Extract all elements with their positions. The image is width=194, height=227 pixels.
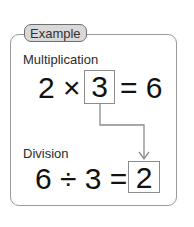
division-left: 6 ÷ 3 = <box>35 162 127 196</box>
division-label: Division <box>23 146 69 161</box>
division-boxed-value: 2 <box>128 161 160 193</box>
